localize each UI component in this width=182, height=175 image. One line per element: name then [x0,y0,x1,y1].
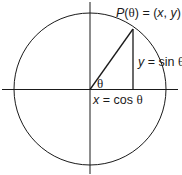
cosine-label: x = cos θ [92,92,143,107]
angle-label: θ [97,76,103,91]
point-label: P(θ) = (x, y) [116,5,181,20]
unit-circle-diagram: P(θ) = (x, y) y = sin θ θ x = cos θ [0,0,182,175]
sine-label: y = sin θ [137,54,182,69]
